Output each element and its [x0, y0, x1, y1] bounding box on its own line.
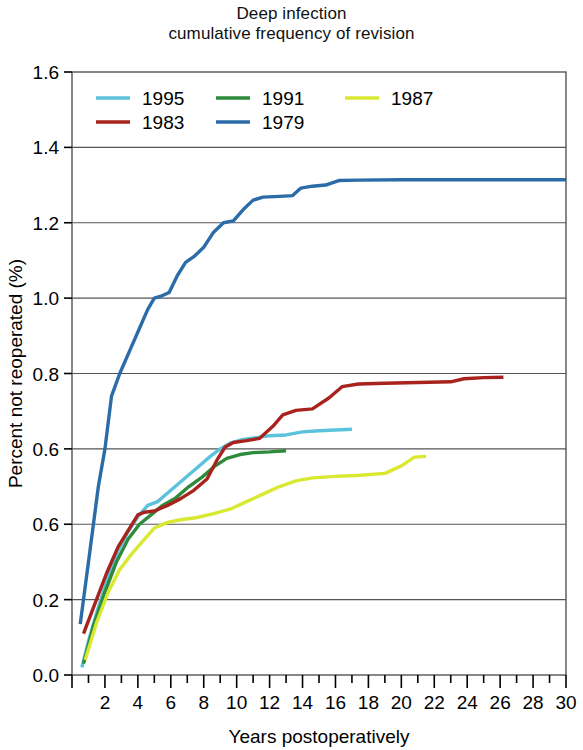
y-tick-label: 1.2: [33, 213, 59, 234]
line-chart: 24681012141618202224262830 0.00.20.60.60…: [0, 0, 583, 750]
x-tick-label: 6: [166, 692, 177, 713]
y-tick-label: 1.6: [33, 62, 59, 83]
legend-label-1983: 1983: [142, 112, 184, 133]
x-tick-label: 14: [292, 692, 314, 713]
legend-label-1987: 1987: [391, 88, 433, 109]
x-tick-label: 18: [358, 692, 379, 713]
x-tick-label: 26: [490, 692, 511, 713]
y-tick-label: 0.0: [33, 665, 59, 686]
y-tick-label: 0.2: [33, 590, 59, 611]
x-tick-label: 28: [522, 692, 543, 713]
x-axis-title: Years postoperatively: [229, 726, 410, 747]
x-axis-ticks: [72, 675, 566, 688]
series-line-1987: [85, 456, 426, 660]
series-lines: [80, 180, 566, 668]
y-axis-ticks: [64, 72, 72, 675]
y-tick-label: 1.0: [33, 288, 59, 309]
chart-page: Deep infection cumulative frequency of r…: [0, 0, 583, 750]
x-tick-label: 16: [325, 692, 346, 713]
x-tick-label: 10: [226, 692, 247, 713]
legend-label-1991: 1991: [262, 88, 304, 109]
x-tick-label: 4: [133, 692, 144, 713]
x-tick-label: 24: [457, 692, 479, 713]
gridlines: [72, 147, 566, 599]
y-axis-title: Percent not reoperated (%): [5, 259, 26, 488]
x-tick-label: 22: [424, 692, 445, 713]
x-tick-label: 30: [555, 692, 576, 713]
y-axis-tick-labels: 0.00.20.60.60.81.01.21.41.6: [33, 62, 60, 686]
chart-legend: 19951991198719831979: [96, 88, 433, 133]
x-tick-label: 2: [100, 692, 111, 713]
x-tick-label: 20: [391, 692, 412, 713]
legend-label-1979: 1979: [262, 112, 304, 133]
x-tick-label: 8: [198, 692, 209, 713]
x-tick-label: 12: [259, 692, 280, 713]
y-tick-label: 0.6: [33, 439, 59, 460]
y-tick-label: 0.6: [33, 514, 59, 535]
legend-label-1995: 1995: [142, 88, 184, 109]
y-tick-label: 1.4: [33, 137, 60, 158]
y-tick-label: 0.8: [33, 364, 59, 385]
x-axis-tick-labels: 24681012141618202224262830: [100, 692, 577, 713]
